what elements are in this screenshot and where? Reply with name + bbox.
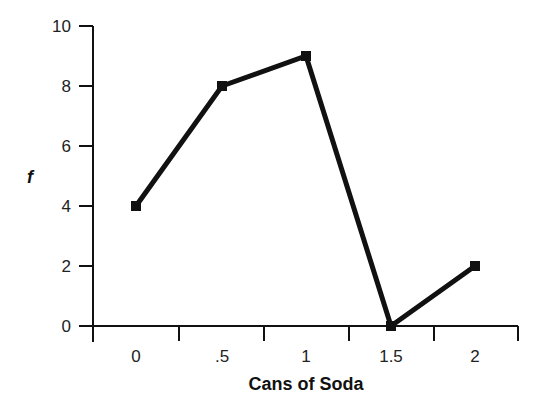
y-axis-title: f	[27, 167, 35, 187]
x-tick-label: 1.5	[379, 347, 403, 366]
y-axis: 0246810	[52, 17, 93, 342]
x-axis-title: Cans of Soda	[248, 374, 364, 394]
x-tick-label: 0	[131, 347, 140, 366]
y-tick-label: 6	[62, 137, 71, 156]
x-tick-label: 2	[470, 347, 479, 366]
data-series	[131, 51, 480, 331]
y-tick-label: 2	[62, 257, 71, 276]
frequency-polygon-chart: 0246810 0.511.52 f Cans of Soda	[0, 0, 547, 420]
data-point-marker	[301, 51, 311, 61]
data-point-marker	[217, 81, 227, 91]
y-tick-label: 8	[62, 77, 71, 96]
y-tick-label: 4	[62, 197, 71, 216]
x-tick-label: .5	[215, 347, 229, 366]
x-tick-label: 1	[301, 347, 310, 366]
y-tick-label: 0	[62, 317, 71, 336]
data-point-marker	[131, 201, 141, 211]
data-point-marker	[470, 261, 480, 271]
data-point-marker	[386, 321, 396, 331]
x-axis: 0.511.52	[79, 326, 518, 366]
y-tick-label: 10	[52, 17, 71, 36]
